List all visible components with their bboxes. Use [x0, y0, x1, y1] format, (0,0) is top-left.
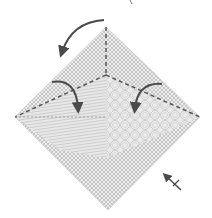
- origami-diagram: [0, 0, 212, 218]
- top-mark: [130, 0, 132, 4]
- turn-over-arrow-icon: [166, 176, 181, 190]
